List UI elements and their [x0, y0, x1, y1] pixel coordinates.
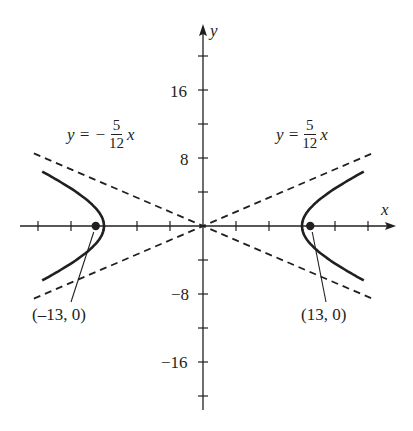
y-axis-label: y — [210, 22, 218, 39]
fraction-denominator: 12 — [302, 135, 317, 151]
focus-point-left — [92, 222, 100, 230]
y-tick-label-neg8: −8 — [171, 286, 189, 303]
asymptote-right-lhs: y = — [276, 125, 299, 145]
fraction-numerator: 5 — [111, 118, 123, 135]
asymptote-right-var: x — [320, 125, 328, 145]
focus-point-right — [306, 222, 314, 230]
asymptote-left-var: x — [127, 125, 135, 145]
asymptote-left-lhs: y = − — [67, 125, 106, 145]
hyperbola-plot — [0, 0, 413, 431]
x-axis-label: x — [381, 201, 389, 218]
focus-label-right: (13, 0) — [301, 306, 346, 323]
fraction-denominator: 12 — [109, 135, 124, 151]
fraction: 5 12 — [109, 118, 124, 151]
focus-label-left: (–13, 0) — [32, 306, 86, 323]
y-tick-label-8: 8 — [180, 151, 189, 168]
asymptote-label-left: y = − 5 12 x — [67, 118, 135, 151]
focus-leader-right — [312, 232, 326, 302]
focus-leader-left — [71, 232, 94, 302]
y-tick-label-16: 16 — [170, 83, 187, 100]
fraction: 5 12 — [302, 118, 317, 151]
asymptote-label-right: y = 5 12 x — [276, 118, 328, 151]
y-tick-label-neg16: −16 — [161, 354, 188, 371]
fraction-numerator: 5 — [304, 118, 316, 135]
